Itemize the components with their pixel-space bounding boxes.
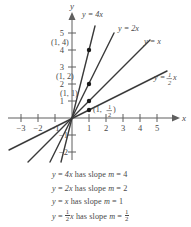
caption-block: y = 4x has slope m = 4 y = 2x has slope … — [0, 168, 191, 227]
caption-2-rhs: 2x — [65, 184, 73, 193]
x-axis-arrowhead — [172, 115, 180, 122]
svg-text:1: 1 — [168, 71, 171, 78]
point-1-1 — [87, 99, 91, 103]
x-tick-label-1: 1 — [87, 123, 91, 133]
caption-2-eq2: = — [114, 184, 123, 193]
point-label-1-1: (1, 1) — [60, 89, 78, 98]
x-tick-label-3: 3 — [121, 123, 125, 133]
y-tick-label--1: −1 — [59, 130, 68, 140]
caption-4-rhs-denominator: 2 — [65, 216, 69, 223]
caption-4-eq2: = — [115, 212, 124, 221]
caption-4-rhs-fraction: 12 — [65, 209, 69, 223]
line-label-y-equals-x: y = x — [143, 37, 161, 46]
y-axis-arrowhead — [69, 12, 76, 20]
caption-line-4: y = 12x has slope m = 12 — [52, 209, 191, 224]
caption-4-value-fraction: 12 — [125, 209, 129, 223]
line-label-y-equals-half-x: y = 1 2 x — [153, 71, 177, 86]
x-axis-label: x — [181, 113, 186, 123]
svg-text:y =: y = — [153, 73, 165, 82]
point-1-2 — [87, 82, 91, 86]
y-tick-label-3: 3 — [60, 62, 64, 72]
lines-group — [9, 26, 167, 162]
caption-4-middle: has slope — [74, 212, 109, 221]
x-tick-label-2: 2 — [104, 123, 108, 133]
tick-label-group: −3 −2 −1 1 2 3 4 5 5 4 3 2 1 −1 −2 — [16, 28, 159, 157]
caption-3-value: 1 — [119, 197, 123, 206]
caption-line-2: y = 2x has slope m = 2 — [52, 182, 191, 196]
caption-3-middle: has slope — [68, 197, 103, 206]
caption-3-rel: = — [56, 197, 65, 206]
caption-3-eq2: = — [110, 197, 119, 206]
svg-text:2: 2 — [168, 79, 172, 86]
caption-2-rel: = — [56, 184, 65, 193]
caption-1-value: 4 — [123, 170, 127, 179]
x-tick-label-5: 5 — [155, 123, 159, 133]
caption-line-1: y = 4x has slope m = 4 — [52, 168, 191, 182]
point-1-half — [87, 108, 91, 112]
caption-1-rel: = — [56, 170, 65, 179]
line-label-y-equals-4x: y = 4x — [81, 10, 103, 19]
caption-line-3: y = x has slope m = 1 — [52, 195, 191, 209]
line-annotation-group: y = 4x y = 2x y = x y = 1 2 x — [81, 10, 177, 86]
caption-1-middle: has slope — [73, 170, 108, 179]
plot-svg: −3 −2 −1 1 2 3 4 5 5 4 3 2 1 −1 −2 x y — [0, 0, 191, 170]
point-label-1-4: (1, 4) — [51, 38, 69, 47]
y-tick-label--2: −2 — [59, 147, 68, 157]
caption-4-value-denominator: 2 — [125, 216, 129, 223]
caption-2-value: 2 — [123, 184, 127, 193]
svg-text:1: 1 — [108, 103, 111, 110]
point-label-1-2: (1, 2) — [56, 72, 74, 81]
y-axis-label: y — [69, 1, 74, 11]
caption-1-eq2: = — [114, 170, 123, 179]
svg-text:x: x — [172, 73, 177, 82]
svg-text:(1,: (1, — [93, 105, 102, 114]
coordinate-plot: −3 −2 −1 1 2 3 4 5 5 4 3 2 1 −1 −2 x y — [0, 0, 191, 170]
caption-2-middle: has slope — [73, 184, 108, 193]
figure-container: −3 −2 −1 1 2 3 4 5 5 4 3 2 1 −1 −2 x y — [0, 0, 191, 227]
y-tick-label-5: 5 — [60, 28, 64, 38]
svg-text:): ) — [113, 105, 116, 114]
x-tick-label--3: −3 — [16, 123, 25, 133]
point-1-4 — [87, 48, 91, 52]
svg-text:2: 2 — [108, 111, 111, 118]
line-label-y-equals-2x: y = 2x — [117, 24, 139, 33]
caption-4-rel: = — [56, 212, 65, 221]
x-tick-label-4: 4 — [138, 123, 143, 133]
caption-1-rhs: 4x — [65, 170, 73, 179]
point-label-1-half: (1, 1 2 ) — [93, 103, 116, 118]
x-tick-label--2: −2 — [33, 123, 42, 133]
